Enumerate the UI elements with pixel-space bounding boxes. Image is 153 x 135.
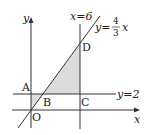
svg-text:x: x [122, 21, 129, 34]
origin-label: O [32, 111, 41, 124]
x-axis-arrow-icon [134, 108, 140, 113]
svg-text:y=: y= [94, 21, 110, 34]
point-c-label: C [81, 96, 89, 109]
y-equals-2-label: y=2 [116, 88, 139, 101]
svg-text:4: 4 [113, 16, 119, 26]
svg-text:3: 3 [113, 28, 119, 38]
point-d-label: D [82, 41, 91, 54]
line-y-equals-four-thirds-x [18, 16, 100, 128]
slope-line-label: y= 4 3 x [94, 16, 129, 38]
point-b-label: B [43, 96, 51, 109]
y-axis-arrow-icon [29, 17, 34, 23]
x-equals-6-label: x=6 [70, 10, 92, 23]
coordinate-diagram: y x O x=6 y=2 y= 4 3 x A B C D [0, 0, 153, 135]
y-axis-label: y [22, 12, 30, 25]
point-a-label: A [21, 81, 31, 94]
x-axis-label: x [134, 113, 141, 126]
